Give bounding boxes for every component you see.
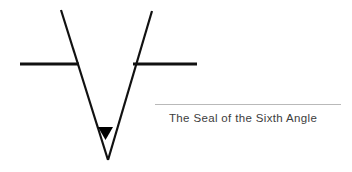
caption-label: The Seal of the Sixth Angle xyxy=(155,111,341,125)
caption-divider xyxy=(155,104,341,105)
sixth-angle-seal-image: The Seal of the Sixth Angle xyxy=(0,0,352,172)
sigil-left-stroke xyxy=(61,10,108,160)
caption-block: The Seal of the Sixth Angle xyxy=(155,104,341,125)
sigil-figure xyxy=(0,0,352,172)
sigil-right-stroke xyxy=(108,11,152,160)
